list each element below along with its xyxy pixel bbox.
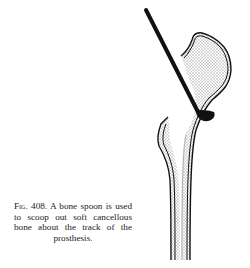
femur-right-cortex: [181, 33, 231, 260]
figure-number: Fig. 408.: [14, 201, 47, 211]
femur-left-cortex: [158, 117, 180, 260]
figure-caption: Fig. 408. A bone spoon is used to scoop …: [14, 201, 132, 243]
figure: Fig. 408. A bone spoon is used to scoop …: [0, 0, 250, 268]
